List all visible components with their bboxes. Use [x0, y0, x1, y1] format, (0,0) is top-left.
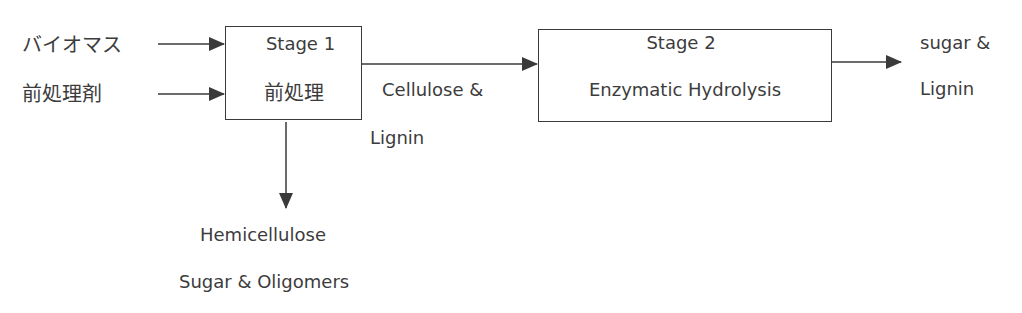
stage2-subtitle: Enzymatic Hydrolysis	[539, 79, 831, 101]
stage2-title: Stage 2	[539, 32, 831, 54]
flow-arrows	[0, 0, 1022, 313]
stage1-title: Stage 1	[226, 33, 361, 55]
stage1-box: Stage 1 前処理	[225, 26, 362, 120]
input-pretreatment-agent-label: 前処理剤	[22, 83, 102, 105]
byproduct-label-line1: Hemicellulose	[200, 224, 326, 246]
stage2-box: Stage 2 Enzymatic Hydrolysis	[538, 29, 832, 122]
output-label-line1: sugar &	[920, 32, 990, 54]
input-biomass-label: バイオマス	[22, 34, 122, 56]
stage1-subtitle: 前処理	[226, 82, 361, 104]
output-label-line2: Lignin	[920, 78, 974, 100]
byproduct-label-line2: Sugar & Oligomers	[179, 271, 349, 293]
intermediate-label-line2: Lignin	[370, 127, 424, 149]
intermediate-label-line1: Cellulose &	[382, 79, 483, 101]
